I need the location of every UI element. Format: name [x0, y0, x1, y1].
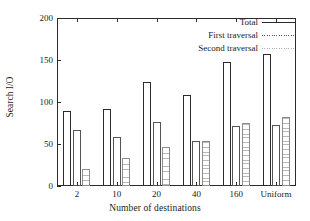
legend-swatch-total-icon: [262, 20, 296, 25]
legend-item-first-traversal: First traversal: [150, 30, 296, 41]
x-tick-mark: [196, 182, 197, 186]
bar-first-40: [192, 141, 200, 186]
y-tick-label: 100: [40, 98, 54, 107]
bar-total-160: [223, 62, 231, 186]
x-tick-label: 10: [112, 190, 121, 199]
x-tick-mark: [236, 182, 237, 186]
x-tick-mark: [276, 182, 277, 186]
x-tick-label: Uniform: [261, 190, 292, 199]
bar-second-40: [202, 141, 210, 186]
x-tick-label: 2: [75, 190, 80, 199]
legend-label-second-traversal: Second traversal: [198, 44, 258, 53]
y-tick-label: 50: [44, 140, 53, 149]
bar-total-20: [143, 82, 151, 186]
x-axis-title: Number of destinations: [0, 203, 310, 213]
bar-second-Uniform: [282, 117, 290, 186]
y-tick-mark: [57, 102, 61, 103]
y-tick-mark: [57, 186, 61, 187]
bar-first-10: [113, 137, 121, 186]
x-tick-mark: [117, 182, 118, 186]
y-tick-mark: [57, 144, 61, 145]
bar-first-20: [153, 122, 161, 186]
legend-label-total: Total: [240, 18, 258, 27]
legend-swatch-second-traversal-icon: [262, 46, 296, 51]
bar-chart: 050100150200 2102040160Uniform Search I/…: [0, 0, 310, 221]
x-tick-mark: [77, 182, 78, 186]
y-tick-mark: [57, 18, 61, 19]
y-tick-label: 150: [40, 56, 54, 65]
x-tick-mark-top: [77, 18, 78, 22]
bar-first-Uniform: [272, 125, 280, 186]
x-tick-label: 160: [230, 190, 244, 199]
x-tick-label: 20: [152, 190, 161, 199]
x-tick-mark-top: [117, 18, 118, 22]
bar-second-10: [122, 158, 130, 186]
bar-first-2: [73, 130, 81, 186]
bar-total-10: [103, 109, 111, 186]
y-tick-label: 200: [40, 14, 54, 23]
bar-total-Uniform: [263, 54, 271, 186]
bar-second-2: [82, 169, 90, 186]
legend-item-second-traversal: Second traversal: [150, 43, 296, 54]
bar-second-160: [242, 123, 250, 186]
x-tick-label: 40: [192, 190, 201, 199]
bar-total-2: [63, 111, 71, 186]
x-tick-mark: [157, 182, 158, 186]
legend-swatch-first-traversal-icon: [262, 33, 296, 38]
bar-second-20: [162, 147, 170, 186]
legend-item-total: Total: [150, 17, 296, 28]
y-axis-title: Search I/O: [5, 57, 15, 137]
legend-label-first-traversal: First traversal: [208, 31, 258, 40]
y-tick-mark: [57, 60, 61, 61]
y-tick-label: 0: [49, 182, 54, 191]
bar-total-40: [183, 95, 191, 186]
legend: Total First traversal Second traversal: [150, 17, 296, 54]
bar-first-160: [232, 126, 240, 186]
